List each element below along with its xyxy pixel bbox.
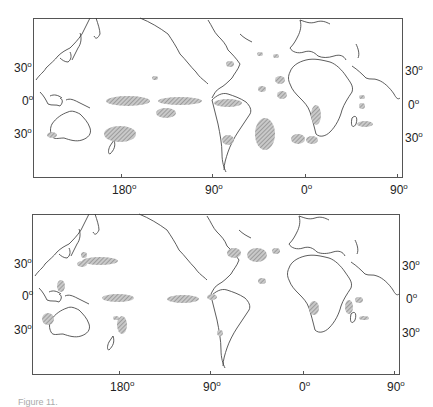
lon-label: 0o — [299, 378, 310, 393]
lat-label: 30o — [14, 321, 32, 336]
lon-label: 180o — [110, 378, 134, 393]
lon-label: 90o — [203, 378, 221, 393]
hatched-regions-bottom — [42, 248, 369, 336]
lat-label: 30o — [14, 255, 32, 270]
figure-caption: Figure 11. — [18, 397, 58, 407]
lat-label: 30o — [402, 324, 420, 339]
coastlines-bottom — [35, 214, 399, 368]
lon-tick — [394, 371, 395, 375]
lon-tick — [303, 371, 304, 375]
lat-label: 0o — [22, 287, 33, 302]
lon-tick — [119, 371, 120, 375]
lon-tick — [210, 371, 211, 375]
lat-label: 30o — [402, 257, 420, 272]
lon-label: 90o — [387, 378, 405, 393]
lat-label: 0o — [406, 290, 417, 305]
